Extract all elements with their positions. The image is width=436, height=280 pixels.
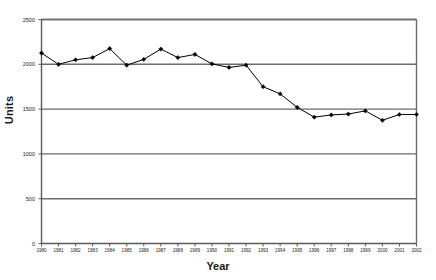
grid-lines <box>42 20 417 199</box>
data-point-marker <box>73 58 77 62</box>
data-point-marker <box>227 65 231 69</box>
y-tick-label: 0 <box>1 241 35 247</box>
line-chart: Units Year 05001000150020002500 19801981… <box>0 0 436 280</box>
plot-frame <box>42 20 417 244</box>
y-tick-label: 2000 <box>1 61 35 67</box>
data-point-marker <box>312 115 316 119</box>
data-point-marker <box>176 55 180 59</box>
data-point-marker <box>346 112 350 116</box>
data-point-marker <box>91 55 95 59</box>
data-point-marker <box>414 112 418 116</box>
data-point-marker <box>329 113 333 117</box>
y-tick-label: 1000 <box>1 151 35 157</box>
y-tick-label: 1500 <box>1 106 35 112</box>
data-point-marker <box>193 52 197 56</box>
data-point-marker <box>397 112 401 116</box>
y-tick-label: 500 <box>1 196 35 202</box>
x-tick-label: 2002 <box>407 248 427 254</box>
axis-ticks <box>39 20 417 247</box>
y-tick-label: 2500 <box>1 17 35 23</box>
x-axis-title: Year <box>0 260 436 272</box>
plot-area <box>0 0 436 280</box>
data-point-marker <box>210 62 214 66</box>
data-series <box>39 47 418 123</box>
data-point-marker <box>380 118 384 122</box>
